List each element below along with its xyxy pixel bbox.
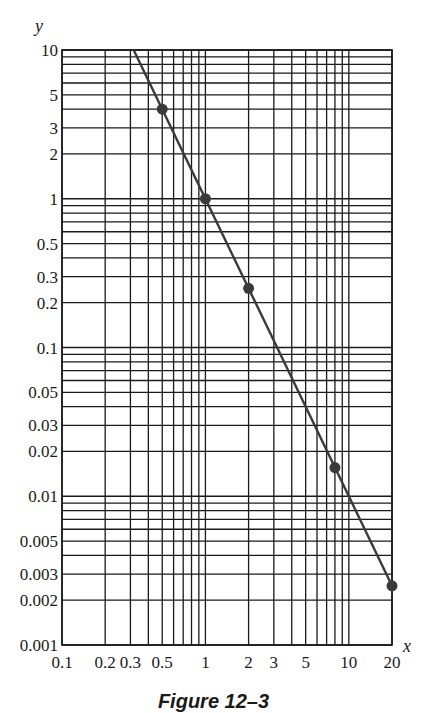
y-tick-label: 0.005 <box>20 532 58 551</box>
data-point <box>387 580 398 591</box>
y-tick-label: 0.5 <box>37 235 58 254</box>
x-tick-label: 3 <box>270 653 279 672</box>
x-tick-label: 5 <box>301 653 310 672</box>
data-point <box>329 462 340 473</box>
y-tick-label: 1 <box>50 190 59 209</box>
x-tick-label: 0.2 <box>95 653 116 672</box>
y-tick-label: 2 <box>50 145 59 164</box>
x-tick-label: 10 <box>340 653 357 672</box>
y-tick-label: 3 <box>50 119 59 138</box>
y-tick-label: 0.002 <box>20 591 58 610</box>
figure-caption: Figure 12–3 <box>0 690 427 713</box>
data-point <box>200 193 211 204</box>
y-tick-label: 10 <box>41 41 58 60</box>
x-tick-label: 0.5 <box>152 653 173 672</box>
y-tick-label: 0.03 <box>28 416 58 435</box>
x-tick-label: 2 <box>244 653 253 672</box>
x-tick-label: 0.3 <box>120 653 141 672</box>
y-tick-label: 0.2 <box>37 294 58 313</box>
x-tick-label: 1 <box>201 653 210 672</box>
x-tick-label: 20 <box>384 653 401 672</box>
y-axis-tick-labels: 1053210.50.30.20.10.050.030.020.010.0050… <box>20 41 58 655</box>
y-tick-label: 0.003 <box>20 565 58 584</box>
data-point <box>243 283 254 294</box>
y-tick-label: 0.001 <box>20 636 58 655</box>
y-tick-label: 5 <box>50 86 59 105</box>
y-tick-label: 0.02 <box>28 442 58 461</box>
y-tick-label: 0.3 <box>37 268 58 287</box>
y-axis-label: y <box>33 16 43 36</box>
y-tick-label: 0.05 <box>28 383 58 402</box>
x-axis-label: x <box>402 636 411 656</box>
x-tick-label: 0.1 <box>51 653 72 672</box>
y-tick-label: 0.1 <box>37 339 58 358</box>
data-point <box>157 104 168 115</box>
y-tick-label: 0.01 <box>28 487 58 506</box>
x-axis-tick-labels: 0.10.20.30.512351020 <box>51 653 400 672</box>
grid-lines <box>62 50 392 645</box>
fitted-line <box>134 50 392 586</box>
